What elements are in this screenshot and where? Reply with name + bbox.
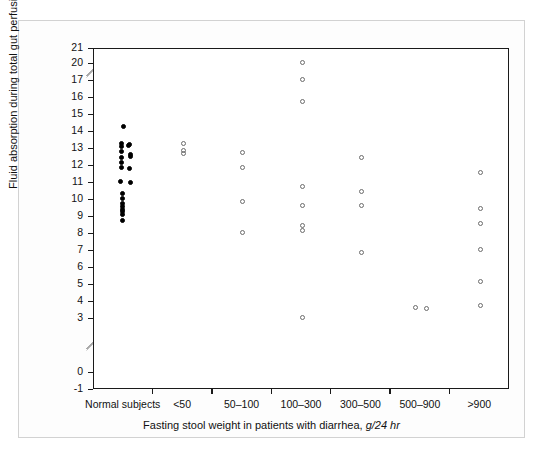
y-axis-tick-label: 6 xyxy=(19,261,83,272)
y-axis-tick-label: 9 xyxy=(19,210,83,221)
data-point-filled xyxy=(126,143,131,148)
data-point-open xyxy=(300,203,305,208)
data-point-filled xyxy=(127,166,132,171)
data-point-filled xyxy=(120,191,125,196)
data-point-open xyxy=(478,303,483,308)
x-axis-title: Fasting stool weight in patients with di… xyxy=(19,419,524,431)
plot-area xyxy=(93,48,509,389)
y-axis-tick-label: 16 xyxy=(19,91,83,102)
data-point-open xyxy=(300,77,305,82)
y-axis-tick-label: 11 xyxy=(19,176,83,187)
x-axis-tick-mark xyxy=(152,389,153,394)
y-axis-tick-label: 13 xyxy=(19,142,83,153)
data-point-filled xyxy=(119,149,124,154)
y-axis-tick-label: 21 xyxy=(19,42,83,53)
data-point-open xyxy=(300,315,305,320)
data-point-open xyxy=(300,184,305,189)
data-point-filled xyxy=(120,218,125,223)
y-axis-tick-label: 10 xyxy=(19,193,83,204)
x-axis-title-units: g/24 hr xyxy=(366,419,400,431)
data-point-open xyxy=(300,99,305,104)
y-axis-title: Fluid absorption during total gut perfus… xyxy=(7,0,19,189)
data-point-filled xyxy=(120,212,125,217)
x-axis-tick-mark xyxy=(330,389,331,394)
data-point-open xyxy=(240,150,245,155)
data-point-open xyxy=(478,279,483,284)
x-axis-tick-mark xyxy=(271,389,272,394)
x-axis-tick-mark xyxy=(211,389,212,394)
y-axis-tick-label: 14 xyxy=(19,125,83,136)
y-axis-tick-label: 12 xyxy=(19,159,83,170)
y-axis-tick-label: -1 xyxy=(19,383,83,394)
data-point-filled xyxy=(121,124,126,129)
y-axis-tick-label: 0 xyxy=(19,366,83,377)
data-point-open xyxy=(478,170,483,175)
x-axis-title-main: Fasting stool weight in patients with di… xyxy=(143,419,366,431)
y-axis-tick-label: 5 xyxy=(19,278,83,289)
y-axis-title-main: Fluid absorption during total gut perfus… xyxy=(7,0,19,189)
y-axis-tick-label: 15 xyxy=(19,108,83,119)
data-point-open xyxy=(181,151,186,156)
data-point-filled xyxy=(118,179,123,184)
data-point-open xyxy=(478,206,483,211)
data-point-open xyxy=(181,141,186,146)
y-axis-tick-label: 7 xyxy=(19,244,83,255)
data-point-open xyxy=(359,203,364,208)
data-point-filled xyxy=(128,154,133,159)
data-point-open xyxy=(424,306,429,311)
y-axis-tick-label: 3 xyxy=(19,312,83,323)
y-axis-tick-label: 20 xyxy=(19,57,83,68)
figure-panel: Fluid absorption during total gut perfus… xyxy=(18,20,525,438)
y-axis-tick-label: 4 xyxy=(19,295,83,306)
data-point-open xyxy=(478,247,483,252)
x-axis-tick-label: >900 xyxy=(438,399,521,410)
data-point-filled xyxy=(119,165,124,170)
x-axis-tick-mark xyxy=(389,389,390,394)
data-point-filled xyxy=(128,180,133,185)
data-point-open xyxy=(240,165,245,170)
data-point-open xyxy=(240,199,245,204)
y-axis-tick-label: 8 xyxy=(19,227,83,238)
data-point-open xyxy=(240,230,245,235)
data-point-open xyxy=(300,228,305,233)
data-point-open xyxy=(359,155,364,160)
data-point-open xyxy=(478,221,483,226)
data-point-open xyxy=(359,250,364,255)
x-axis-tick-mark xyxy=(449,389,450,394)
y-axis-tick-label: 17 xyxy=(19,74,83,85)
data-point-open xyxy=(359,189,364,194)
data-point-open xyxy=(300,60,305,65)
data-point-open xyxy=(413,305,418,310)
